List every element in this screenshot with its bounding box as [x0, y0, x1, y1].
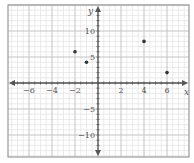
- data-point: [142, 40, 146, 44]
- x-tick-label: 4: [141, 86, 146, 95]
- x-tick-label: −4: [46, 86, 58, 95]
- scatter-plot: −6−4−2246105−5−10 x y: [0, 0, 194, 163]
- data-point: [85, 60, 89, 64]
- data-point: [73, 50, 77, 54]
- x-axis-label: x: [184, 87, 189, 97]
- x-axis-right-arrow-icon: [182, 80, 188, 86]
- data-point: [165, 71, 169, 75]
- y-tick-label: −5: [83, 105, 95, 114]
- x-tick-label: −6: [23, 86, 35, 95]
- y-axis-label: y: [87, 6, 94, 16]
- x-tick-label: 6: [164, 86, 169, 95]
- x-tick-label: 2: [118, 86, 123, 95]
- y-axis-down-arrow-icon: [95, 150, 101, 156]
- y-axis-up-arrow-icon: [95, 6, 101, 12]
- y-tick-label: 10: [85, 27, 95, 36]
- x-tick-label: −2: [69, 86, 81, 95]
- y-tick-label: 5: [90, 53, 95, 62]
- y-tick-label: −10: [78, 131, 95, 140]
